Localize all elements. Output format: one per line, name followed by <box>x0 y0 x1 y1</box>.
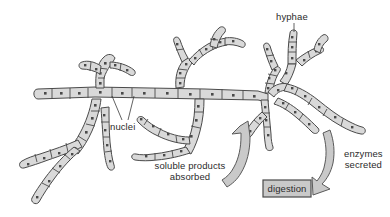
label-soluble-products-absorbed: soluble products absorbed <box>150 160 230 182</box>
label-hyphae: hyphae <box>276 11 308 22</box>
branch-middle-lower <box>132 99 204 161</box>
nuclei-leader-lines <box>112 96 134 120</box>
branch-left-upper <box>79 54 135 88</box>
secretion-arrow <box>312 130 334 195</box>
branch-left-vertical <box>101 107 114 170</box>
label-digestion: digestion <box>263 180 311 197</box>
branch-right-cluster <box>245 30 365 151</box>
main-hypha <box>34 87 268 102</box>
branch-middle-upper <box>174 27 246 88</box>
label-nuclei: nuclei <box>110 121 135 132</box>
label-enzymes-secreted: enzymes secreted <box>344 148 383 170</box>
diagram-canvas: hyphae nuclei soluble products absorbed … <box>0 0 390 217</box>
branch-left-lower <box>20 99 101 204</box>
hypha-diagram-svg <box>0 0 390 217</box>
